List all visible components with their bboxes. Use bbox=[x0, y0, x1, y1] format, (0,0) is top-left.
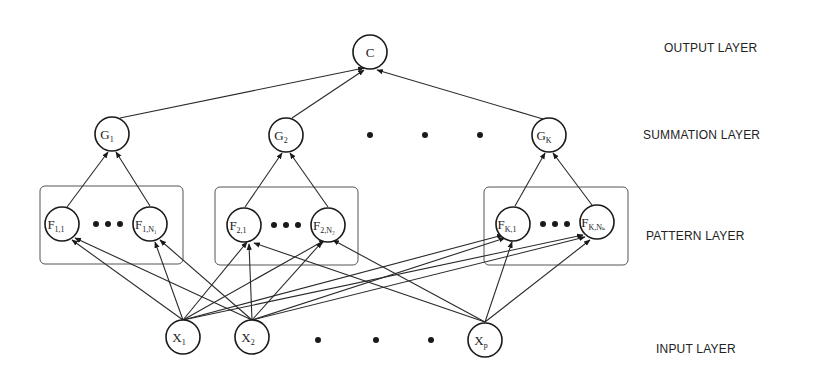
pattern-node-f21: F2,1 bbox=[227, 208, 261, 242]
summation-node-g1: G1 bbox=[95, 117, 129, 151]
edges-pattern-to-summation bbox=[67, 152, 592, 207]
input-node-xp: Xp bbox=[468, 323, 502, 357]
pattern-group-1-dots bbox=[93, 221, 123, 227]
pattern-node-f11: F1,1 bbox=[45, 207, 79, 241]
svg-text:C: C bbox=[366, 45, 375, 60]
pnn-architecture-diagram: C G1 G2 GK F1,1 F1,N₁ F2,1 bbox=[0, 0, 823, 383]
input-layer-label: INPUT LAYER bbox=[656, 342, 736, 356]
pattern-group-k-dots bbox=[540, 221, 570, 227]
pattern-node-f1n1: F1,N₁ bbox=[133, 207, 167, 241]
edges-summation-to-output bbox=[120, 68, 543, 119]
summation-node-g2: G2 bbox=[269, 118, 303, 152]
input-ellipsis-dots bbox=[315, 337, 434, 343]
edges-input-to-pattern bbox=[72, 235, 590, 322]
summation-ellipsis-dots bbox=[367, 132, 483, 138]
input-node-x1: X1 bbox=[166, 320, 200, 354]
pattern-node-fknk: FK,Nₖ bbox=[580, 205, 614, 239]
summation-layer-label: SUMMATION LAYER bbox=[643, 128, 760, 142]
pattern-node-fk1: FK,1 bbox=[496, 207, 530, 241]
summation-node-gk: GK bbox=[532, 118, 566, 152]
input-node-x2: X2 bbox=[235, 320, 269, 354]
output-node-c: C bbox=[353, 35, 387, 69]
pattern-node-f2n2: F2,N₂ bbox=[311, 208, 345, 242]
output-layer-label: OUTPUT LAYER bbox=[664, 41, 757, 55]
pattern-layer-label: PATTERN LAYER bbox=[646, 229, 745, 243]
pattern-group-2-dots bbox=[271, 222, 301, 228]
